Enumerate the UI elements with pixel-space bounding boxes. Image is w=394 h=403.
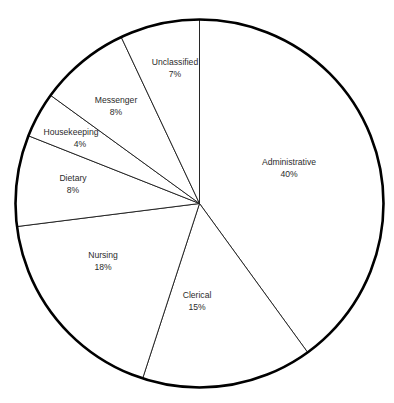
slice-label-messenger: Messenger [95, 95, 138, 105]
slice-label-housekeeping: Housekeeping [44, 127, 99, 137]
pie-chart-page: Administrative40%Clerical15%Nursing18%Di… [0, 0, 394, 403]
slice-value-messenger: 8% [110, 107, 123, 117]
slice-label-dietary: Dietary [59, 173, 87, 183]
slice-label-unclassified: Unclassified [152, 57, 199, 67]
slice-label-clerical: Clerical [183, 290, 212, 300]
slice-value-housekeeping: 4% [74, 139, 87, 149]
slice-value-unclassified: 7% [169, 69, 182, 79]
pie-chart: Administrative40%Clerical15%Nursing18%Di… [0, 0, 394, 403]
slice-label-administrative: Administrative [262, 157, 316, 167]
slice-value-clerical: 15% [188, 302, 206, 312]
pie-slice-group [15, 20, 383, 388]
slice-value-nursing: 18% [94, 262, 112, 272]
slice-value-dietary: 8% [67, 185, 80, 195]
slice-label-nursing: Nursing [88, 250, 118, 260]
slice-value-administrative: 40% [280, 169, 298, 179]
